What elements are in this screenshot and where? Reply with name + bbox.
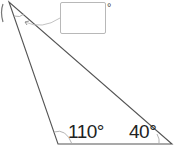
- answer-degree-symbol: °: [107, 2, 111, 13]
- bracket-fragment: [2, 4, 4, 22]
- angle-label-110: 110°: [68, 122, 104, 141]
- pointer-line: [25, 18, 60, 25]
- answer-input-box[interactable]: [60, 2, 106, 34]
- angle-40-arc: [157, 134, 159, 144]
- angle-label-40: 40°: [129, 122, 156, 141]
